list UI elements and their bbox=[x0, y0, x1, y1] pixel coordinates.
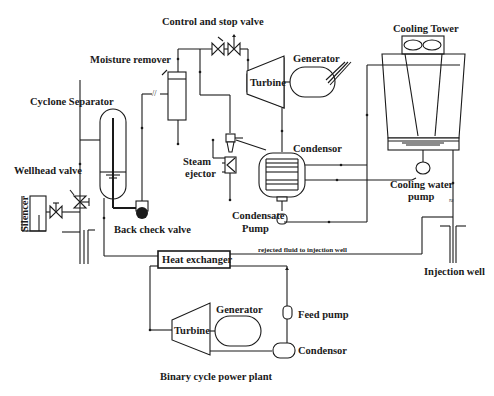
cooling-water-pump-label-1: Cooling water bbox=[390, 179, 454, 190]
cooling-tower-label: Cooling Tower bbox=[393, 23, 459, 34]
silencer-label: Silencer bbox=[19, 196, 30, 232]
svg-text://: // bbox=[152, 89, 157, 98]
geothermal-flash-binary-diagram: Silencer Wellhead valve Cyclone S bbox=[0, 0, 494, 396]
turbine-top-label: Turbine bbox=[250, 77, 286, 88]
turbine-binary-label: Turbine bbox=[174, 325, 210, 336]
moisture-remover-label: Moisture remover bbox=[90, 54, 171, 65]
condensor-binary bbox=[273, 343, 295, 358]
back-check-valve-label: Back check valve bbox=[114, 224, 191, 235]
condensor-binary-label: Condensor bbox=[298, 345, 347, 356]
turbine-top: Turbine bbox=[247, 56, 291, 152]
generator-top-label: Generator bbox=[293, 53, 340, 64]
injection-well-label: Injection well bbox=[424, 266, 485, 277]
steam-ejector-label-1: Steam bbox=[183, 156, 211, 167]
condensor-top-label: Condensor bbox=[293, 143, 342, 154]
silencer: Silencer bbox=[19, 196, 46, 232]
back-check-valve: // bbox=[136, 89, 168, 219]
condensate-pump-label-1: Condensate bbox=[232, 210, 285, 221]
binary-cycle-title: Binary cycle power plant bbox=[160, 371, 273, 382]
rejected-fluid-label: rejected fluid to injection well bbox=[258, 246, 347, 254]
injection-well bbox=[440, 224, 466, 263]
steam-ejector-label-2: ejector bbox=[185, 168, 216, 179]
feed-pump bbox=[283, 306, 292, 343]
control-stop-valve-label: Control and stop valve bbox=[162, 16, 264, 27]
generator-binary-label: Generator bbox=[216, 304, 263, 315]
heat-exchanger: Heat exchanger bbox=[149, 251, 289, 331]
generator-binary bbox=[215, 316, 261, 346]
control-valve bbox=[212, 43, 224, 55]
cooling-water-pump-label-2: pump bbox=[408, 191, 434, 202]
cyclone-separator-label: Cyclone Separator bbox=[30, 96, 114, 107]
condensate-pump-label-2: Pump bbox=[242, 223, 269, 234]
feed-pump-label: Feed pump bbox=[298, 309, 349, 320]
svg-text:≈: ≈ bbox=[449, 196, 454, 205]
heat-exchanger-label: Heat exchanger bbox=[162, 254, 233, 265]
steam-ejector bbox=[212, 134, 266, 201]
cooling-water-pump bbox=[412, 162, 430, 180]
silencer-valve bbox=[46, 203, 80, 218]
generator-top: Generator bbox=[290, 53, 351, 97]
wellhead-valve-label: Wellhead valve bbox=[14, 165, 82, 176]
